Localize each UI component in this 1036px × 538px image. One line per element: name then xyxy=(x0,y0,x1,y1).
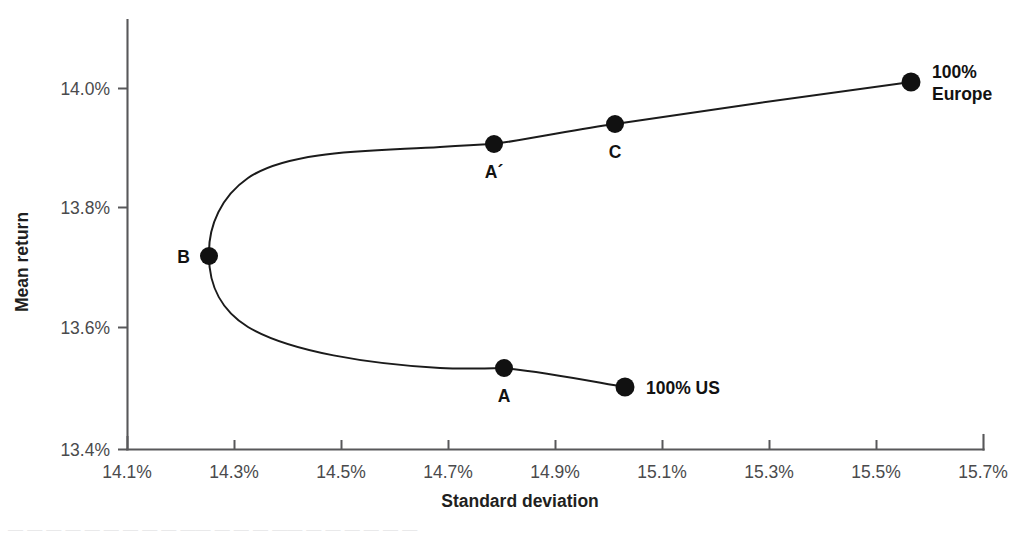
minimum-variance-lower xyxy=(209,256,625,387)
axes-group xyxy=(128,20,984,450)
efficient-frontier-chart: 14.0% 13.8% 13.6% 13.4% 14.1% 14.3% 14.5… xyxy=(0,0,1036,538)
x-tick-label-14-1: 14.1% xyxy=(102,462,152,482)
x-tick-label-15-7: 15.7% xyxy=(958,462,1008,482)
marker-point-a[interactable] xyxy=(495,359,513,377)
point-label-c: C xyxy=(609,142,622,162)
marker-point-b[interactable] xyxy=(200,247,218,265)
y-axis-title: Mean return xyxy=(12,212,32,312)
marker-point-c[interactable] xyxy=(606,115,624,133)
point-label-a-prime: A´ xyxy=(485,162,504,182)
cropped-caption-text: — — — — — — — — — —— — — — —— — — — — — … xyxy=(8,524,417,537)
data-point-labels: B A´ C 100% Europe A 100% US xyxy=(177,62,992,406)
point-label-b: B xyxy=(177,247,190,267)
x-axis-title: Standard deviation xyxy=(441,491,599,511)
marker-point-europe[interactable] xyxy=(902,73,921,92)
data-point-markers xyxy=(200,73,921,397)
frontier-curve-group xyxy=(209,82,911,387)
x-tick-labels: 14.1% 14.3% 14.5% 14.7% 14.9% 15.1% 15.3… xyxy=(102,462,1008,482)
y-tick-labels: 14.0% 13.8% 13.6% 13.4% xyxy=(60,79,110,460)
efficient-frontier-upper xyxy=(209,82,911,256)
y-tick-label-13-4: 13.4% xyxy=(60,440,110,460)
x-tick-label-15-5: 15.5% xyxy=(851,462,901,482)
marker-point-us[interactable] xyxy=(616,378,635,397)
x-tick-label-14-3: 14.3% xyxy=(209,462,259,482)
point-label-a: A xyxy=(498,386,511,406)
efficient-frontier-figure: 14.0% 13.8% 13.6% 13.4% 14.1% 14.3% 14.5… xyxy=(0,0,1036,538)
y-tick-marks xyxy=(118,89,127,450)
x-tick-label-14-9: 14.9% xyxy=(530,462,580,482)
x-tick-label-15-1: 15.1% xyxy=(637,462,687,482)
y-tick-label-13-6: 13.6% xyxy=(60,318,110,338)
y-tick-label-13-8: 13.8% xyxy=(60,198,110,218)
marker-point-a-prime[interactable] xyxy=(485,135,503,153)
cropped-caption-strip: — — — — — — — — — —— — — — —— — — — — — … xyxy=(0,524,1036,538)
point-label-europe-line2: Europe xyxy=(932,84,993,104)
x-tick-label-14-5: 14.5% xyxy=(316,462,366,482)
y-tick-label-14-0: 14.0% xyxy=(60,79,110,99)
x-tick-marks xyxy=(128,436,877,450)
point-label-us: 100% US xyxy=(646,378,720,398)
x-tick-label-14-7: 14.7% xyxy=(423,462,473,482)
x-tick-label-15-3: 15.3% xyxy=(744,462,794,482)
point-label-europe-line1: 100% xyxy=(932,62,977,82)
